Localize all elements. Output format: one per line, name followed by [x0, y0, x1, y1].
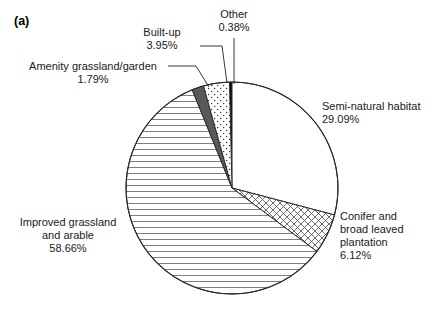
pie-slice-label-text: Built-up [128, 26, 196, 39]
pie-slice-label: Amenity grassland/garden1.79% [24, 60, 162, 86]
pie-slice-value: 3.95% [128, 39, 196, 52]
pie-slice-label-text: Other [203, 8, 265, 21]
pie-slice-label-text: and arable [10, 229, 126, 242]
leader-line [200, 46, 227, 83]
pie-slice-value: 58.66% [10, 242, 126, 255]
pie-slice-label-text: Improved grassland [10, 216, 126, 229]
pie-slice-value: 1.79% [24, 73, 162, 86]
leader-line [168, 66, 209, 87]
pie-slice-value: 29.09% [322, 113, 434, 126]
pie-slice-label-text: broad leaved [340, 223, 432, 236]
pie-slice-label: Improved grasslandand arable58.66% [10, 216, 126, 255]
pie-slice-label: Conifer andbroad leavedplantation6.12% [340, 210, 432, 262]
pie-chart-svg [0, 0, 436, 316]
pie-slice-label: Semi-natural habitat29.09% [322, 100, 434, 126]
pie-chart-figure: (a) Other0.38%Semi-natural habitat29.0 [0, 0, 436, 316]
pie-slice-label: Other0.38% [203, 8, 265, 34]
pie-slice-label-text: plantation [340, 236, 432, 249]
pie-slice-value: 0.38% [203, 21, 265, 34]
pie-slice-label-text: Amenity grassland/garden [24, 60, 162, 73]
pie-slice-value: 6.12% [340, 249, 432, 262]
pie-slice-label-text: Semi-natural habitat [322, 100, 434, 113]
pie-slice-label-text: Conifer and [340, 210, 432, 223]
pie-slices-group [126, 82, 338, 294]
pie-slice-label: Built-up3.95% [128, 26, 196, 52]
